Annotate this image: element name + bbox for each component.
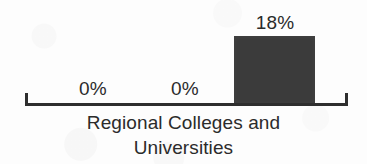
axis-baseline (25, 103, 348, 106)
caption-line-2: Universities (0, 135, 367, 160)
bar-value-label-2: 18% (242, 12, 308, 34)
category-axis-caption: Regional Colleges and Universities (0, 110, 367, 160)
plot-area: 0% 0% 18% (0, 0, 367, 112)
bar-value-label-0: 0% (63, 78, 123, 100)
axis-end-tick-left (25, 93, 28, 106)
axis-end-tick-right (345, 93, 348, 106)
bar-regional-colleges (234, 36, 315, 104)
caption-line-1: Regional Colleges and (0, 110, 367, 135)
bar-chart-figure: 0% 0% 18% Regional Colleges and Universi… (0, 0, 367, 164)
bar-value-label-1: 0% (155, 78, 215, 100)
